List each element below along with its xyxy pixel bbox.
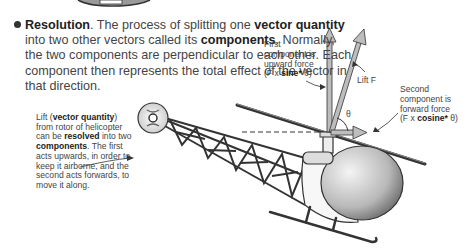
lift-caption: Lift (vector quantity) from rotor of hel… [36, 113, 136, 191]
term-resolution: Resolution [25, 18, 90, 32]
cropped-illustration-fragment [78, 0, 150, 6]
second-component-label: Second component is forward force (F x c… [400, 85, 458, 124]
bullet-icon [14, 21, 21, 28]
tail-rotor [138, 103, 168, 133]
tail-boom [165, 118, 312, 205]
lift-f-label: Lift F [357, 76, 376, 86]
first-component-label: First component is upward force (F x sin… [264, 40, 315, 79]
theta-angle-arc [337, 118, 348, 131]
cabin [302, 146, 403, 222]
theta-label: θ [346, 110, 351, 120]
